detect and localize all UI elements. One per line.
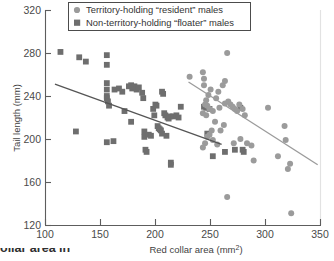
x-tick-label: 150 [91,228,109,240]
data-point-circle [251,158,257,164]
x-tick-label: 300 [256,228,274,240]
caption-text: ollar area in [0,248,70,255]
data-point-circle [208,87,214,93]
data-point-square [136,85,142,91]
data-point-circle [212,119,218,125]
data-point-square [144,149,150,155]
floater-trendline [55,84,222,144]
data-point-square [76,54,82,60]
y-axis-title: Tail length (mm) [11,84,22,152]
data-point-circle [287,161,293,167]
legend-label-resident: Territory-holding “resident” males [86,4,223,15]
data-point-square [104,52,110,58]
plot-axes [45,10,321,226]
data-point-square [83,59,89,65]
data-point-square [164,133,170,139]
x-axis-tick-labels: 100 150 200 250 300 350 [36,228,329,240]
data-point-circle [240,106,246,112]
data-point-square [140,95,146,101]
data-point-circle [224,194,230,200]
data-point-square [148,133,154,139]
y-tick-label: 200 [23,133,41,145]
data-point-circle [221,122,227,128]
data-point-circle [210,108,216,114]
data-point-square [232,147,238,153]
data-point-square [139,90,145,96]
data-point-square [178,104,184,110]
data-point-circle [200,69,206,75]
data-point-circle [288,210,294,216]
x-axis-ticks [46,219,321,225]
data-point-square [176,115,182,121]
legend: Territory-holding “resident” males Non-t… [69,3,251,31]
data-point-square [119,89,125,95]
data-point-circle [285,166,291,172]
square-marker [74,20,80,26]
data-point-square [168,162,174,168]
y-tick-label: 160 [23,176,41,188]
data-point-square [104,87,110,93]
y-axis-tick-labels: 320 280 240 200 160 120 [23,4,41,231]
data-point-square [104,139,110,145]
data-point-circle [231,140,237,146]
data-point-square [111,138,117,144]
data-point-square [104,80,110,86]
data-point-circle [282,123,288,129]
data-point-square [160,91,166,97]
data-point-square [73,129,79,135]
y-tick-label: 320 [23,4,41,16]
data-point-square [151,112,157,118]
x-tick-label: 200 [146,228,164,240]
data-point-square [58,49,64,55]
trendlines-group [55,82,318,165]
data-point-circle [224,50,230,56]
data-point-circle [216,105,222,111]
x-tick-label: 250 [201,228,219,240]
y-tick-label: 280 [23,47,41,59]
x-tick-label: 350 [311,228,329,240]
data-point-circle [215,89,221,95]
data-point-circle [265,105,271,111]
data-point-square [241,149,247,155]
data-point-circle [187,74,193,80]
data-point-circle [201,76,207,82]
data-point-square [222,149,228,155]
scatter-plot: 320 280 240 200 160 120 100 150 200 250 … [0,0,334,261]
figure-container: 320 280 240 200 160 120 100 150 200 250 … [0,0,334,261]
data-point-circle [200,145,206,151]
resident-trendline [189,82,318,165]
data-point-circle [222,78,228,84]
series-resident-points [187,50,295,216]
data-point-circle [201,82,207,88]
data-point-square [104,62,110,68]
data-point-circle [275,153,281,159]
y-tick-label: 240 [23,90,41,102]
data-point-circle [218,127,224,133]
x-axis-title: Red collar area (mm2) [149,244,242,255]
data-point-circle [248,142,254,148]
circle-marker [74,7,80,13]
data-point-square [128,119,134,125]
data-point-square [210,153,216,159]
caption-fragment: ollar area in [0,248,120,261]
data-point-circle [203,112,209,118]
x-tick-label: 100 [36,228,54,240]
legend-label-floater: Non-territory-holding “floater” males [86,17,234,28]
data-point-circle [237,136,243,142]
data-point-square [154,103,160,109]
